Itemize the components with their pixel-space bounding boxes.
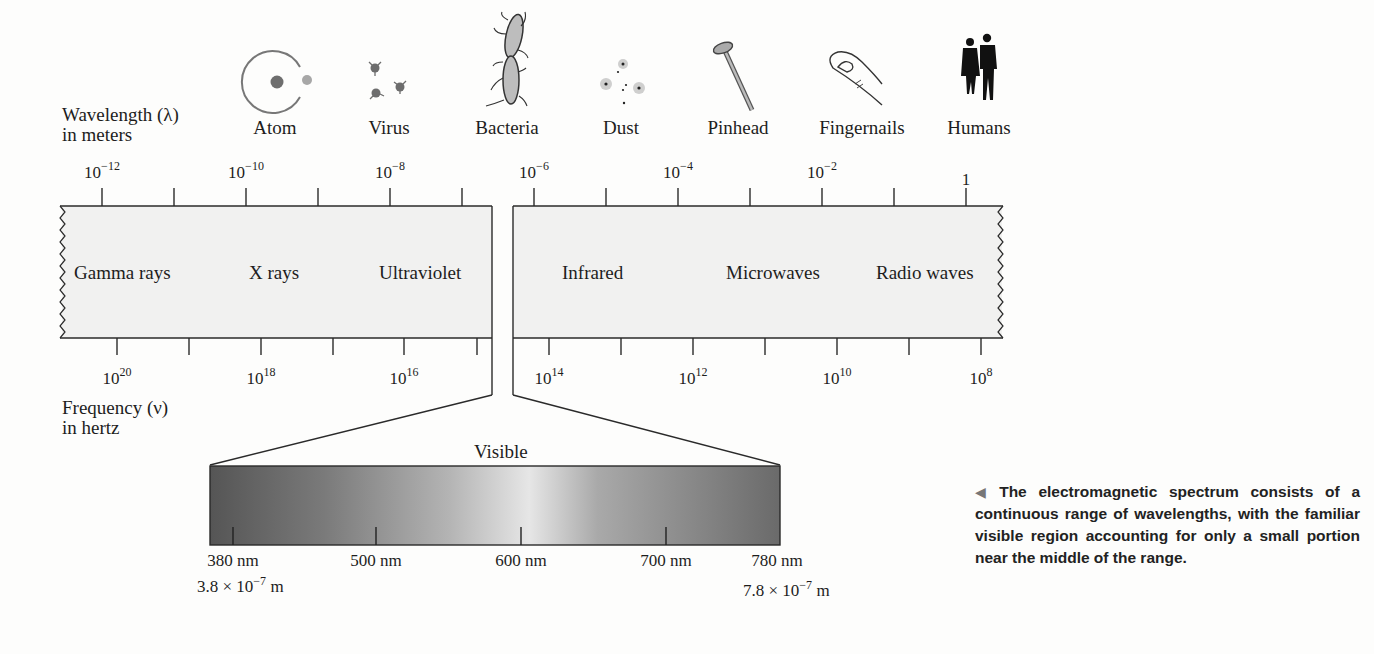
region-gamma-rays: Gamma rays [74, 262, 171, 284]
visible-tick-label-700: 700 nm [616, 551, 716, 571]
wavelength-label-line1: Wavelength (λ) [62, 104, 179, 126]
frequency-tick-label: 1020 [67, 366, 167, 389]
wavelength-tick-label: 10−6 [484, 160, 584, 183]
bacteria-icon [486, 12, 528, 106]
visible-tick-label-600: 600 nm [471, 551, 571, 571]
frequency-label-line1: Frequency (ν) [62, 397, 168, 419]
visible-left-meters: 3.8 × 10−7 m [197, 574, 284, 597]
region-x-rays: X rays [249, 262, 299, 284]
wavelength-ticks [102, 188, 966, 206]
wavelength-tick-label: 10−10 [196, 160, 296, 183]
fingernail-icon [830, 52, 882, 105]
object-label-pinhead: Pinhead [668, 117, 808, 139]
wavelength-tick-label: 10−8 [340, 160, 440, 183]
caption-arrow-icon: ◀ [975, 484, 993, 500]
wavelength-axis-label: Wavelength (λ) in meters [62, 104, 179, 146]
frequency-tick-label: 1014 [499, 366, 599, 389]
frequency-tick-label: 108 [931, 366, 1031, 389]
atom-icon [242, 51, 312, 113]
visible-tick-label-500: 500 nm [326, 551, 426, 571]
wavelength-tick-label: 10−4 [628, 160, 728, 183]
frequency-tick-label: 1010 [787, 366, 887, 389]
frequency-axis-label: Frequency (ν) in hertz [62, 397, 168, 439]
visible-tick-label-780: 780 nm [727, 551, 827, 571]
frequency-tick-label: 1016 [354, 366, 454, 389]
frequency-tick-label: 1018 [211, 366, 311, 389]
region-ultraviolet: Ultraviolet [379, 262, 461, 284]
visible-spectrum-bar [210, 466, 780, 545]
dust-icon [600, 59, 645, 104]
visible-title: Visible [474, 441, 528, 463]
frequency-ticks [117, 338, 981, 355]
virus-icon [369, 62, 406, 99]
wavelength-tick-label: 10−12 [52, 160, 152, 183]
region-radio-waves: Radio waves [876, 262, 974, 284]
caption-text: The electromagnetic spectrum consists of… [975, 483, 1360, 566]
visible-right-meters: 7.8 × 10−7 m [743, 578, 830, 601]
visible-tick-label-380: 380 nm [183, 551, 283, 571]
humans-icon [961, 34, 997, 100]
wavelength-label-line2: in meters [62, 124, 179, 146]
spectrum-band [60, 206, 1003, 338]
wavelength-tick-label: 10−2 [772, 160, 872, 183]
frequency-label-line2: in hertz [62, 417, 168, 439]
region-microwaves: Microwaves [726, 262, 820, 284]
object-label-humans: Humans [909, 117, 1049, 139]
wavelength-tick-label: 1 [916, 167, 1016, 190]
pinhead-icon [712, 40, 752, 110]
figure-caption: ◀The electromagnetic spectrum consists o… [975, 481, 1360, 569]
frequency-tick-label: 1012 [643, 366, 743, 389]
region-infrared: Infrared [562, 262, 623, 284]
